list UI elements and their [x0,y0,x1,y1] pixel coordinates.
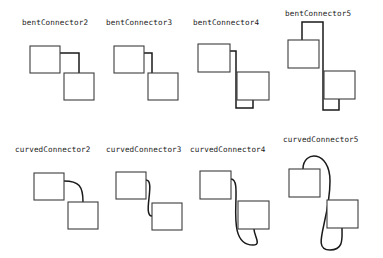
connector-panel-bentConnector3 [114,46,178,100]
connector-panel-bentConnector5 [288,22,355,110]
start-node-box-bentConnector4[interactable] [198,44,230,72]
start-node-box-bentConnector3[interactable] [114,46,144,73]
end-node-box-curvedConnector3[interactable] [152,203,182,230]
end-node-box-bentConnector4[interactable] [237,72,269,100]
connector-path-curvedConnector2[interactable] [64,181,83,202]
panel-label-bentConnector2: bentConnector2 [22,19,88,27]
start-node-box-curvedConnector3[interactable] [116,172,146,199]
connector-panel-curvedConnector4 [200,171,269,245]
end-node-box-bentConnector5[interactable] [324,71,355,99]
panel-label-bentConnector5: bentConnector5 [285,10,351,18]
end-node-box-curvedConnector5[interactable] [327,200,358,228]
start-node-box-curvedConnector5[interactable] [289,169,320,197]
connector-panel-curvedConnector5 [289,156,358,250]
connector-path-bentConnector2[interactable] [60,53,79,73]
start-node-box-bentConnector2[interactable] [30,46,60,73]
panel-label-curvedConnector5: curvedConnector5 [283,136,359,144]
connector-panel-curvedConnector2 [34,173,98,229]
panel-label-bentConnector3: bentConnector3 [106,19,172,27]
end-node-box-curvedConnector4[interactable] [238,201,269,229]
start-node-box-curvedConnector2[interactable] [34,173,64,200]
panel-label-curvedConnector2: curvedConnector2 [15,146,91,154]
connector-panel-bentConnector2 [30,46,94,100]
start-node-box-curvedConnector4[interactable] [200,171,231,199]
connector-panel-curvedConnector3 [116,172,182,230]
connector-gallery-canvas [0,0,383,258]
connector-path-curvedConnector3[interactable] [146,180,152,216]
panel-label-curvedConnector3: curvedConnector3 [106,146,182,154]
panel-label-bentConnector4: bentConnector4 [193,19,259,27]
connector-panel-bentConnector4 [198,44,269,108]
end-node-box-curvedConnector2[interactable] [68,202,98,229]
start-node-box-bentConnector5[interactable] [288,40,319,68]
panel-label-curvedConnector4: curvedConnector4 [190,146,266,154]
end-node-box-bentConnector2[interactable] [64,73,94,100]
end-node-box-bentConnector3[interactable] [148,73,178,100]
